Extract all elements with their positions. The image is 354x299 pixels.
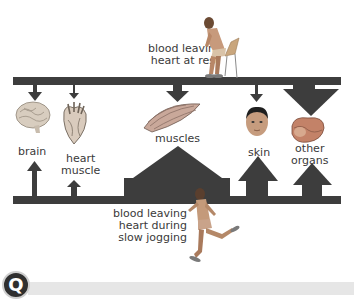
organ-label-heart-muscle: heart muscle (61, 153, 100, 177)
jogging-caption: blood leaving heart during slow jogging (113, 208, 187, 244)
organ-label-muscles: muscles (155, 133, 200, 145)
face-icon (243, 104, 271, 138)
heart-icon (58, 100, 92, 146)
question-badge-icon: Q (2, 271, 30, 299)
muscle-icon (142, 100, 204, 134)
organs-label-line-2: organs (291, 155, 329, 167)
organ-label-brain: brain (18, 146, 46, 158)
person-sitting-icon (195, 14, 245, 82)
badge-glyph: Q (4, 275, 28, 295)
rest-flow-bar (13, 77, 341, 85)
organ-label-skin: skin (248, 147, 270, 159)
jogging-caption-line-3: slow jogging (113, 232, 187, 244)
muscles-label: muscles (155, 133, 200, 145)
skin-label: skin (248, 147, 270, 159)
person-jogging-icon (180, 186, 242, 270)
jogging-flow-bar (13, 196, 341, 204)
heart-label-line-2: muscle (61, 165, 100, 177)
organ-label-other-organs: other organs (291, 143, 329, 167)
footer-strip (28, 282, 354, 295)
brain-icon (14, 100, 52, 134)
brain-label: brain (18, 146, 46, 158)
